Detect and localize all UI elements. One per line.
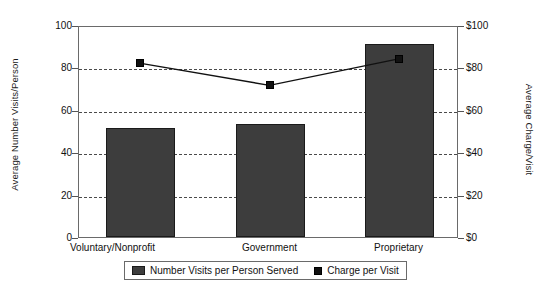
- y-axis-right-title: Average Charge/Visit: [522, 10, 538, 248]
- y-tick-left-20: 20: [12, 191, 72, 201]
- marker-proprietary: [395, 55, 403, 63]
- x-axis-label-government: Government: [202, 242, 337, 254]
- tick-mark-right-100: [458, 26, 464, 27]
- x-axis-label-proprietary: Proprietary: [331, 242, 466, 254]
- tick-mark-right-20: [458, 196, 464, 197]
- legend-item-label-number-visits: Number Visits per Person Served: [150, 265, 298, 276]
- tick-mark-right-60: [458, 111, 464, 112]
- tick-mark-right-80: [458, 68, 464, 69]
- y-tick-right-40: $40: [466, 148, 514, 158]
- marker-government: [266, 81, 274, 89]
- chart-container: Average Number Visits/Person Average Cha…: [0, 0, 540, 297]
- y-axis-left-ticks: 100 80 60 40 20 0: [8, 26, 72, 238]
- tick-mark-left-0: [72, 238, 78, 239]
- legend-item-number-visits: Number Visits per Person Served: [132, 265, 298, 276]
- y-tick-left-40: 40: [12, 148, 72, 158]
- line-series-layer: [78, 26, 458, 238]
- y-tick-right-0: $0: [466, 233, 514, 243]
- y-axis-right-title-text: Average Charge/Visit: [525, 83, 536, 174]
- y-tick-left-100: 100: [12, 21, 72, 31]
- y-tick-right-60: $60: [466, 106, 514, 116]
- tick-mark-right-0: [458, 238, 464, 239]
- legend-item-charge-per-visit: Charge per Visit: [314, 265, 399, 276]
- legend-bar-swatch-icon: [132, 266, 145, 275]
- x-axis-label-voluntary-nonprofit: Voluntary/Nonprofit: [45, 242, 180, 254]
- y-tick-right-20: $20: [466, 191, 514, 201]
- legend-marker-swatch-icon: [314, 267, 322, 275]
- y-tick-left-80: 80: [12, 63, 72, 73]
- legend-item-label-charge-per-visit: Charge per Visit: [327, 265, 399, 276]
- chart-legend: Number Visits per Person Served Charge p…: [124, 261, 407, 280]
- y-axis-right-ticks: $100 $80 $60 $40 $20 $0: [466, 26, 516, 238]
- marker-voluntary-nonprofit: [136, 59, 144, 67]
- y-tick-right-80: $80: [466, 63, 514, 73]
- y-tick-left-60: 60: [12, 106, 72, 116]
- tick-mark-right-40: [458, 153, 464, 154]
- y-tick-right-100: $100: [466, 21, 514, 31]
